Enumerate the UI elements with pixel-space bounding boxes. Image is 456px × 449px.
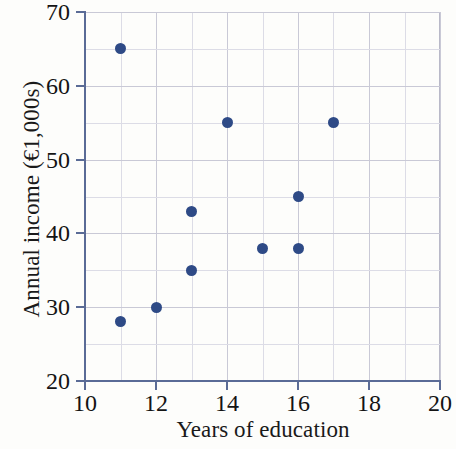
data-point: [115, 316, 126, 327]
data-point: [293, 191, 304, 202]
x-axis-tick: [439, 381, 441, 390]
y-axis-tick-label: 30: [26, 295, 70, 319]
data-point: [328, 117, 339, 128]
x-axis-tick: [368, 381, 370, 390]
x-axis-tick: [226, 381, 228, 390]
x-axis-tick-label: 18: [344, 391, 394, 415]
gridline-horizontal: [85, 197, 440, 198]
gridline-horizontal: [85, 49, 440, 50]
x-axis-line: [84, 380, 441, 382]
y-axis-tick-label: 60: [26, 74, 70, 98]
x-axis-tick-label: 16: [273, 391, 323, 415]
data-point: [115, 43, 126, 54]
y-axis-tick-label: 20: [26, 369, 70, 393]
x-axis-tick: [297, 381, 299, 390]
y-axis-tick-label: 40: [26, 221, 70, 245]
y-axis-tick-label: 70: [26, 0, 70, 24]
data-point: [186, 206, 197, 217]
gridline-horizontal: [85, 307, 440, 308]
scatter-plot-figure: Annual income (€1,000s) Years of educati…: [0, 0, 456, 449]
x-axis-tick: [155, 381, 157, 390]
gridline-horizontal: [85, 344, 440, 345]
y-axis-tick: [76, 232, 85, 234]
x-axis-tick-label: 20: [415, 391, 456, 415]
gridline-horizontal: [85, 86, 440, 87]
x-axis-tick-label: 12: [131, 391, 181, 415]
y-axis-tick: [76, 85, 85, 87]
x-axis-tick-label: 14: [202, 391, 252, 415]
data-point: [257, 243, 268, 254]
gridline-horizontal: [85, 12, 440, 13]
gridline-horizontal: [85, 233, 440, 234]
y-axis-tick: [76, 159, 85, 161]
x-axis-title: Years of education: [85, 417, 441, 443]
y-axis-line: [84, 11, 86, 382]
data-point: [151, 302, 162, 313]
x-axis-tick: [84, 381, 86, 390]
gridline-horizontal: [85, 270, 440, 271]
data-point: [186, 265, 197, 276]
gridline-horizontal: [85, 160, 440, 161]
y-axis-tick-label: 50: [26, 148, 70, 172]
x-axis-tick-label: 10: [60, 391, 110, 415]
data-point: [222, 117, 233, 128]
data-point: [293, 243, 304, 254]
y-axis-tick: [76, 306, 85, 308]
gridline-vertical: [440, 12, 441, 381]
plot-area: [85, 12, 440, 381]
gridline-horizontal: [85, 123, 440, 124]
y-axis-tick: [76, 11, 85, 13]
